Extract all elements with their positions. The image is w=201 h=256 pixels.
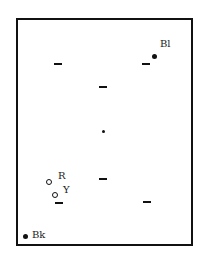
point-y-label: Y: [63, 185, 70, 195]
point-bl-label: Bl: [160, 39, 171, 49]
dash-marker: [143, 201, 151, 203]
point-r-open-circle: [46, 179, 52, 185]
point-bk-label: Bk: [32, 230, 45, 240]
dash-marker: [99, 86, 107, 88]
point-bl-filled-dot: [152, 54, 157, 59]
point-y-open-circle: [52, 192, 58, 198]
point-bk-filled-dot: [23, 234, 28, 239]
dash-marker: [55, 202, 63, 204]
dash-marker: [142, 63, 150, 65]
dash-marker: [54, 63, 62, 65]
center-dot: [102, 130, 105, 133]
dash-marker: [99, 178, 107, 180]
point-r-label: R: [58, 171, 66, 181]
